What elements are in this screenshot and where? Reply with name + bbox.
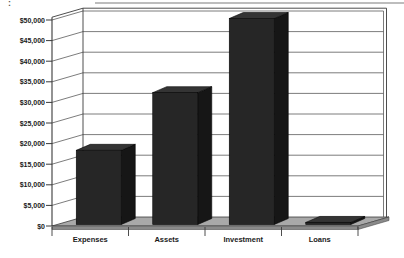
gridline-left-wall bbox=[52, 73, 83, 82]
gridline-left-wall bbox=[52, 114, 83, 123]
bar-front-face bbox=[306, 222, 351, 224]
3d-bar-chart: $0$5,000$10,000$15,000$20,000$25,000$30,… bbox=[0, 0, 404, 258]
gridline-left-wall bbox=[52, 32, 83, 41]
bar-side-face bbox=[121, 144, 135, 224]
chart-screenshot: : $0$5,000$10,000$15,000$20,000$25,000$3… bbox=[0, 0, 404, 258]
category-label-assets: Assets bbox=[154, 235, 179, 244]
y-axis-label: $35,000 bbox=[20, 78, 45, 86]
y-axis-label: $5,000 bbox=[24, 202, 46, 210]
bar-assets bbox=[153, 87, 212, 225]
bar-front-face bbox=[229, 19, 274, 225]
y-axis-label: $10,000 bbox=[20, 181, 45, 189]
y-axis-label: $40,000 bbox=[20, 58, 45, 66]
y-axis-label: $25,000 bbox=[20, 120, 45, 128]
bar-expenses bbox=[76, 144, 135, 224]
y-axis-label: $20,000 bbox=[20, 140, 45, 148]
y-axis-label: $50,000 bbox=[20, 17, 45, 25]
y-axis-label: $0 bbox=[37, 223, 45, 231]
bar-front-face bbox=[153, 93, 198, 225]
y-axis-label: $15,000 bbox=[20, 161, 45, 169]
bar-front-face bbox=[76, 150, 121, 224]
gridline-left-wall bbox=[52, 93, 83, 102]
bar-investment bbox=[229, 13, 288, 225]
gridline-left-wall bbox=[52, 135, 83, 144]
category-label-expenses: Expenses bbox=[73, 235, 108, 244]
category-label-investment: Investment bbox=[223, 235, 263, 244]
gridline-left-wall bbox=[52, 52, 83, 61]
y-axis-label: $30,000 bbox=[20, 99, 45, 107]
category-label-loans: Loans bbox=[309, 235, 331, 244]
bar-side-face bbox=[274, 13, 288, 225]
y-axis-label: $45,000 bbox=[20, 37, 45, 45]
bar-side-face bbox=[198, 87, 212, 225]
